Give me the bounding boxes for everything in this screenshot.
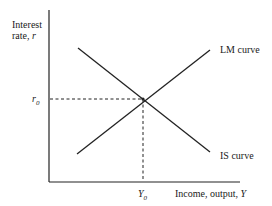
- lm-curve-label: LM curve: [220, 44, 260, 55]
- y-axis-label-text: rate,: [12, 30, 32, 41]
- y-axis-variable: r: [32, 30, 36, 41]
- x-axis-label-text: Income, output,: [175, 188, 241, 199]
- x-axis-label: Income, output, Y: [175, 188, 246, 199]
- y0-sub: 0: [144, 194, 148, 202]
- x-axis-variable: Y: [241, 188, 247, 199]
- is-curve-label: IS curve: [220, 150, 254, 161]
- y-axis-label-line2: rate, r: [12, 30, 42, 41]
- y-axis-label: Interest rate, r: [12, 19, 42, 41]
- r0-tick-label: r0: [32, 93, 39, 109]
- r0-sub: 0: [36, 99, 40, 107]
- equilibrium-point: [141, 97, 144, 100]
- y-axis-label-line1: Interest: [12, 19, 42, 30]
- y0-tick-label: Y0: [138, 188, 147, 204]
